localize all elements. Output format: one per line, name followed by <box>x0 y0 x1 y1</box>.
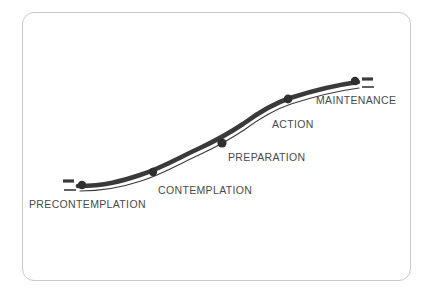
stage-label-precontemplation: PRECONTEMPLATION <box>29 199 146 210</box>
stage-label-maintenance: MAINTENANCE <box>316 95 396 106</box>
stage-label-contemplation: CONTEMPLATION <box>158 185 252 196</box>
stages-of-change-curve <box>0 0 433 296</box>
diagram-page: PRECONTEMPLATION CONTEMPLATION PREPARATI… <box>0 0 433 296</box>
node-dot-preparation-icon[interactable] <box>217 138 226 147</box>
node-dot-maintenance-icon[interactable] <box>351 77 359 85</box>
stage-label-preparation: PREPARATION <box>228 152 306 163</box>
node-dot-contemplation-icon[interactable] <box>149 168 157 176</box>
node-dot-action-icon[interactable] <box>284 95 293 104</box>
stage-label-action: ACTION <box>272 119 314 130</box>
node-dot-precontemplation-icon[interactable] <box>78 181 86 189</box>
